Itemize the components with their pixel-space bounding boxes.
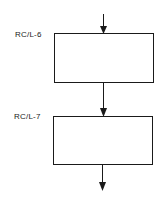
exit-arrowhead-icon (99, 182, 106, 191)
block-label-rc-l-7: RC/L-7 (14, 112, 41, 121)
entry-arrowhead-icon (100, 26, 107, 34)
block-rc-l-7 (54, 117, 153, 165)
block-rc-l-6 (55, 34, 154, 83)
block-label-rc-l-6: RC/L-6 (15, 30, 42, 39)
connector-arrowhead-icon (100, 108, 107, 117)
